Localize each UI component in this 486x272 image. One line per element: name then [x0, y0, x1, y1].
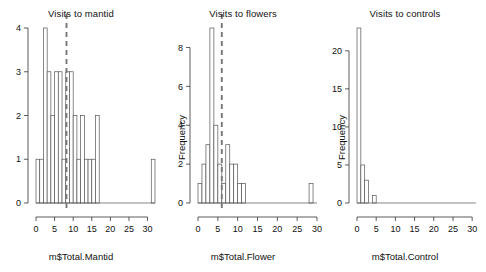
x-axis-tick-label: 5: [52, 224, 57, 234]
histogram-bar: [242, 184, 246, 203]
bars: [36, 28, 155, 203]
x-axis-tick-label: 30: [467, 224, 477, 234]
histogram-bar: [234, 164, 238, 203]
histogram-bar: [66, 72, 70, 203]
histogram-bar: [81, 116, 85, 204]
y-axis-tick-label: 20: [332, 46, 342, 56]
panel-title: Visits to mantid: [0, 8, 162, 19]
histogram-bar: [88, 159, 92, 203]
x-axis-tick-label: 5: [374, 224, 379, 234]
histogram-bar: [210, 28, 214, 203]
panel-title: Visits to flowers: [162, 8, 324, 19]
x-axis-tick-label: 10: [68, 224, 78, 234]
histogram-bar: [202, 164, 206, 203]
x-axis-tick-label: 0: [195, 224, 200, 234]
histogram-bar: [361, 165, 365, 203]
x-axis-tick-label: 15: [410, 224, 420, 234]
x-axis-tick-label: 0: [354, 224, 359, 234]
x-axis-tick-label: 30: [312, 224, 322, 234]
histogram-figure: 01234051015202530 Visits to mantid m$Tot…: [0, 0, 486, 272]
y-axis-tick-label: 4: [16, 23, 21, 33]
x-axis-label: m$Total.Mantid: [0, 251, 162, 262]
panel-mantid: 01234051015202530 Visits to mantid m$Tot…: [0, 0, 162, 272]
histogram-bar: [69, 72, 73, 203]
x-axis-tick-label: 20: [429, 224, 439, 234]
x-axis-tick-label: 5: [215, 224, 220, 234]
x-axis-tick-label: 25: [292, 224, 302, 234]
y-axis-tick-label: 5: [337, 160, 342, 170]
x-axis-tick-label: 10: [233, 224, 243, 234]
x-axis-tick-label: 20: [105, 224, 115, 234]
histogram-bar: [62, 159, 66, 203]
histogram-bar: [238, 184, 242, 203]
y-axis-tick-label: 0: [337, 198, 342, 208]
histogram-bar: [230, 164, 234, 203]
x-axis-tick-label: 25: [124, 224, 134, 234]
histogram-bar: [372, 195, 376, 203]
histogram-bar: [198, 184, 202, 203]
y-axis-tick-label: 8: [178, 43, 183, 53]
histogram-bar: [357, 28, 361, 203]
histogram-bar: [43, 28, 47, 203]
histogram-bar: [51, 116, 55, 204]
y-axis-tick-label: 0: [178, 198, 183, 208]
histogram-bar: [58, 72, 62, 203]
x-axis-tick-label: 30: [143, 224, 153, 234]
plot-area-mantid: 01234051015202530: [0, 0, 162, 272]
histogram-bar: [92, 159, 96, 203]
x-axis-label: m$Total.Control: [324, 251, 486, 262]
x-axis-tick-label: 20: [272, 224, 282, 234]
histogram-bar: [40, 159, 44, 203]
panel-title: Visits to controls: [324, 8, 486, 19]
histogram-bar: [309, 184, 313, 203]
y-axis-tick-label: 15: [332, 84, 342, 94]
x-axis-tick-label: 25: [448, 224, 458, 234]
y-axis-tick-label: 1: [16, 154, 21, 164]
histogram-bar: [226, 145, 230, 203]
panel-controls: 05101520051015202530 Visits to controls …: [324, 0, 486, 272]
bars: [198, 28, 313, 203]
y-axis-tick-label: 0: [16, 198, 21, 208]
x-axis-tick-label: 10: [390, 224, 400, 234]
histogram-bar: [55, 72, 59, 203]
histogram-bar: [73, 116, 77, 204]
histogram-bar: [77, 159, 81, 203]
x-axis-label: m$Total.Flower: [162, 251, 324, 262]
x-axis-tick-label: 0: [33, 224, 38, 234]
x-axis-tick-label: 15: [252, 224, 262, 234]
y-axis-tick-label: 2: [16, 111, 21, 121]
y-axis-label: Frequency: [336, 115, 347, 160]
histogram-bar: [365, 180, 369, 203]
y-axis-label: Frequency: [176, 115, 187, 160]
histogram-bar: [151, 159, 155, 203]
plot-area-controls: 05101520051015202530: [324, 0, 486, 272]
histogram-bar: [206, 145, 210, 203]
y-axis-tick-label: 6: [178, 82, 183, 92]
panel-flowers: 02468051015202530 Visits to flowers m$To…: [162, 0, 324, 272]
histogram-bar: [214, 125, 218, 203]
histogram-bar: [36, 159, 40, 203]
x-axis-tick-label: 15: [87, 224, 97, 234]
y-axis-tick-label: 3: [16, 67, 21, 77]
bars: [357, 28, 376, 203]
histogram-bar: [84, 159, 88, 203]
histogram-bar: [47, 72, 51, 203]
y-axis-tick-label: 2: [178, 159, 183, 169]
histogram-bar: [96, 116, 100, 204]
